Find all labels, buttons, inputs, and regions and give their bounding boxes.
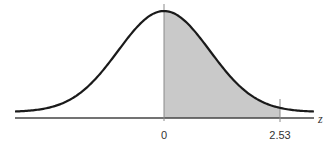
axis-label-z: z bbox=[317, 112, 323, 126]
tick-label-zero: 0 bbox=[161, 129, 167, 141]
tick-label-bound: 2.53 bbox=[269, 129, 290, 141]
normal-distribution-chart: 0 2.53 z bbox=[0, 0, 334, 152]
